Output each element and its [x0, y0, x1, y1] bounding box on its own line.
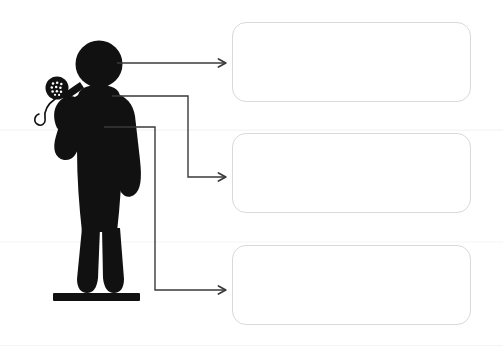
- label-box-2[interactable]: [232, 133, 471, 213]
- person-with-microphone-silhouette: [35, 41, 141, 302]
- figure-right-leg: [102, 228, 124, 293]
- label-box-1-text: [233, 23, 470, 43]
- microphone-head: [46, 77, 69, 100]
- label-box-2-text: [233, 134, 470, 154]
- label-box-1[interactable]: [232, 22, 471, 102]
- worksheet-canvas: [0, 0, 503, 349]
- figure-base-bar: [53, 293, 140, 301]
- microphone-cord: [35, 99, 55, 125]
- figure-left-leg: [77, 228, 100, 293]
- figure-head: [76, 41, 123, 88]
- label-box-3-text: [233, 246, 470, 266]
- label-box-3[interactable]: [232, 245, 471, 325]
